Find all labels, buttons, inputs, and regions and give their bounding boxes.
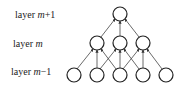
node	[90, 68, 104, 82]
node	[159, 68, 173, 82]
edge	[147, 49, 162, 69]
edge	[77, 49, 93, 69]
nodes	[67, 7, 173, 82]
edge	[101, 19, 115, 37]
edge	[125, 19, 139, 37]
node	[113, 7, 127, 21]
node	[136, 36, 150, 50]
node	[113, 68, 127, 82]
network-diagram	[0, 0, 187, 93]
node	[113, 36, 127, 50]
node	[67, 68, 81, 82]
node	[136, 68, 150, 82]
node	[90, 36, 104, 50]
